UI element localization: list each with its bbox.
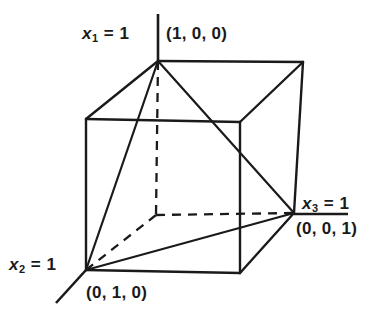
figure-container: x1 = 1 (1, 0, 0) x3 = 1 (0, 0, 1) x2 = 1…: [0, 0, 380, 315]
edge-bottom-front: [86, 270, 240, 273]
x3-subscript: 3: [312, 202, 319, 214]
x1-equals-one: = 1: [99, 24, 130, 43]
hidden-edge-origin-to-back-right: [156, 213, 294, 215]
edge-bottom-right: [240, 213, 294, 273]
x2-equals-one: = 1: [26, 255, 57, 274]
x3-axis-label: x3 = 1: [302, 194, 349, 214]
vertex-label-001: (0, 0, 1): [296, 219, 357, 239]
simplex-edge-100-to-010: [86, 61, 158, 270]
x2-axis-tick: [56, 270, 86, 303]
simplex-edge-100-to-001: [158, 61, 294, 213]
x2-axis-label: x2 = 1: [9, 255, 56, 275]
vertex-label-100: (1, 0, 0): [166, 24, 227, 44]
x2-subscript: 2: [19, 263, 26, 275]
vertex-label-010: (0, 1, 0): [86, 283, 147, 303]
edge-top-front: [86, 119, 240, 122]
x3-equals-one: = 1: [319, 194, 350, 213]
edge-top-back: [158, 61, 303, 62]
x1-axis-label: x1 = 1: [82, 24, 129, 44]
x1-variable: x: [82, 24, 92, 43]
x3-variable: x: [302, 194, 312, 213]
x2-variable: x: [9, 255, 19, 274]
edge-vertical-back-right: [294, 62, 303, 213]
simplex-edge-010-to-001: [86, 213, 294, 270]
hidden-edge-vertical-origin: [156, 61, 158, 215]
edge-top-right: [240, 62, 303, 122]
cube-diagram: [0, 0, 380, 315]
x1-subscript: 1: [92, 32, 99, 44]
